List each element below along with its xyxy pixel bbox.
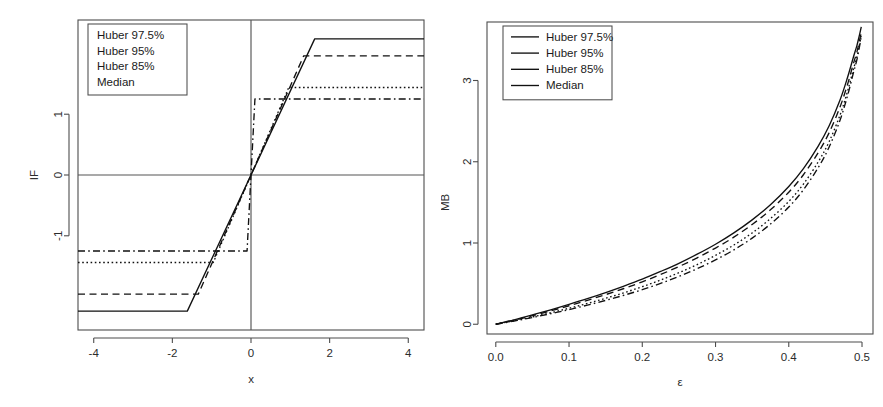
x-axis: -4-2024x: [89, 338, 412, 385]
figure-container: -4-2024x-101IFHuber 97.5%Huber 95%Huber …: [0, 0, 883, 407]
x-tick-label: 0.3: [708, 351, 724, 363]
x-tick-label: 0.2: [634, 351, 650, 363]
legend-item-label: Huber 85%: [97, 60, 155, 72]
x-tick-label: 2: [326, 347, 332, 359]
y-tick-label: 1: [461, 240, 473, 246]
y-axis-title: IF: [28, 170, 40, 180]
y-axis: -101IF: [28, 111, 69, 241]
x-axis-title: x: [248, 373, 254, 385]
x-tick-label: 0.1: [561, 351, 577, 363]
y-tick-label: 2: [461, 159, 473, 165]
y-tick-label: 3: [461, 77, 473, 83]
x-axis-title: ε: [677, 376, 682, 388]
x-tick-label: 0.5: [854, 351, 870, 363]
x-tick-label: 0: [248, 347, 254, 359]
x-tick-label: -4: [89, 347, 100, 359]
y-tick-label: -1: [52, 231, 64, 241]
x-tick-label: -2: [167, 347, 177, 359]
legend-item-label: Huber 97.5%: [97, 29, 164, 41]
x-tick-label: 4: [405, 347, 412, 359]
legend-item-label: Huber 85%: [546, 63, 604, 75]
y-axis-title: MB: [441, 193, 451, 211]
legend-item-label: Huber 95%: [546, 47, 604, 59]
x-axis: 0.00.10.20.30.40.5ε: [488, 342, 870, 388]
panel-influence-function: -4-2024x-101IFHuber 97.5%Huber 95%Huber …: [0, 0, 441, 407]
legend-maximum-bias: Huber 97.5%Huber 95%Huber 85%Median: [503, 26, 613, 100]
x-tick-label: 0.4: [781, 351, 798, 363]
legend-item-label: Huber 95%: [97, 45, 155, 57]
x-tick-label: 0.0: [488, 351, 504, 363]
influence-function-plot: -4-2024x-101IFHuber 97.5%Huber 95%Huber …: [0, 0, 441, 407]
legend-item-label: Median: [97, 76, 135, 88]
legend-item-label: Huber 97.5%: [546, 31, 613, 43]
legend-influence-function: Huber 97.5%Huber 95%Huber 85%Median: [88, 24, 187, 95]
y-tick-label: 1: [52, 111, 64, 117]
y-tick-label: 0: [461, 321, 473, 327]
y-tick-label: 0: [52, 172, 64, 178]
y-axis: 0123MB: [441, 77, 478, 327]
legend-item-label: Median: [546, 79, 584, 91]
panel-maximum-bias: 0.00.10.20.30.40.5ε0123MBHuber 97.5%Hube…: [441, 0, 883, 407]
maximum-bias-plot: 0.00.10.20.30.40.5ε0123MBHuber 97.5%Hube…: [441, 0, 883, 407]
